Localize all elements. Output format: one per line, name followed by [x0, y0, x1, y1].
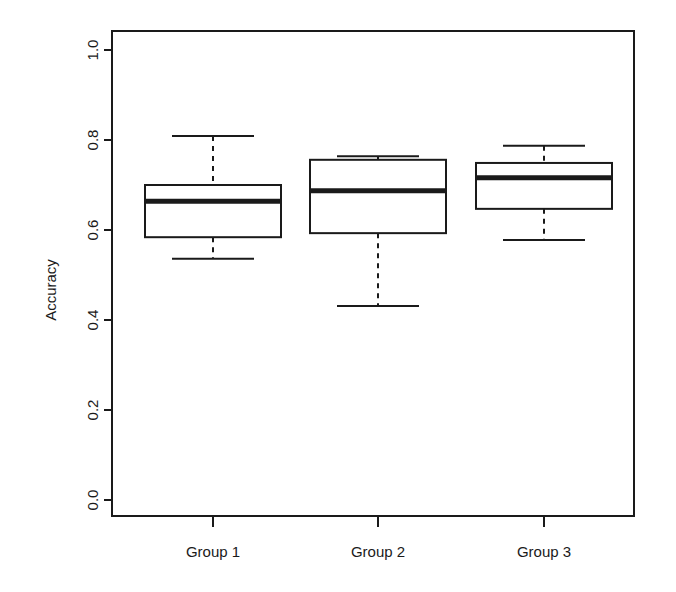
y-tick-label-0.2: 0.2 — [84, 400, 101, 421]
boxplot-figure: 1.0 0.8 0.6 0.4 0.2 0.0 Accuracy Group 1… — [0, 0, 676, 592]
box-iqr-1 — [145, 185, 281, 237]
y-tick-label-0.4: 0.4 — [84, 310, 101, 331]
x-axis: Group 1 Group 2 Group 3 — [186, 516, 571, 560]
boxplot-canvas: 1.0 0.8 0.6 0.4 0.2 0.0 Accuracy Group 1… — [0, 0, 676, 592]
x-tick-label-group-3: Group 3 — [517, 543, 571, 560]
y-axis: 1.0 0.8 0.6 0.4 0.2 0.0 Accuracy — [42, 40, 113, 511]
y-tick-label-0.6: 0.6 — [84, 220, 101, 241]
box-iqr-3 — [476, 163, 612, 209]
box-iqr-2 — [310, 160, 446, 233]
plot-panel-border — [112, 31, 634, 516]
y-tick-label-1.0: 1.0 — [84, 40, 101, 61]
y-axis-title: Accuracy — [42, 259, 59, 321]
y-tick-label-0.8: 0.8 — [84, 130, 101, 151]
x-tick-label-group-1: Group 1 — [186, 543, 240, 560]
x-tick-label-group-2: Group 2 — [351, 543, 405, 560]
y-tick-label-0.0: 0.0 — [84, 490, 101, 511]
